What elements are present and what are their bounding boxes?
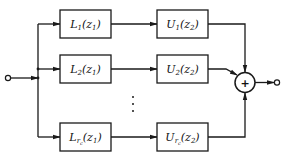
- block-L1-label: L1(z1): [69, 18, 101, 32]
- branch-2: L2(z1) U2(z2): [38, 55, 237, 83]
- summing-junction: +: [235, 73, 255, 93]
- branch-rc: Lrc(z1) Urc(z2): [38, 93, 245, 151]
- block-Lrc-label: Lrc(z1): [68, 131, 101, 146]
- block-U1-label: U1(z2): [166, 18, 199, 32]
- plus-icon: +: [240, 77, 249, 90]
- junction-dot: [37, 77, 40, 80]
- block-L2-label: L2(z1): [69, 63, 101, 77]
- block-diagram: L1(z1) U1(z2) L2(z1) U2(z2) Lrc(z1) Urc(…: [0, 0, 289, 160]
- input-terminal: [5, 75, 10, 80]
- block-Urc-label: Urc(z2): [165, 131, 199, 146]
- ellipsis-dots: [132, 96, 134, 112]
- block-U2-label: U2(z2): [166, 63, 199, 77]
- output-terminal: [274, 80, 279, 85]
